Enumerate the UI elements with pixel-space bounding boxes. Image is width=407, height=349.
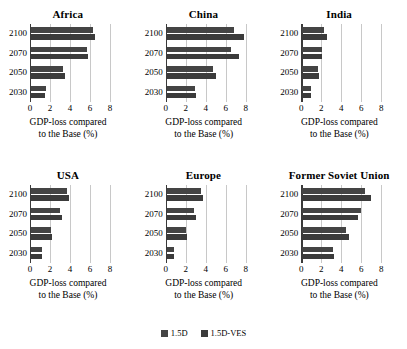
bar-group: 2100 bbox=[31, 185, 110, 205]
chart-panel-former-soviet-union: Former Soviet Union210020702050203002468… bbox=[271, 161, 407, 322]
legend-label: 1.5D bbox=[171, 328, 188, 338]
chart-panel-europe: Europe210020702050203002468GDP-loss comp… bbox=[136, 161, 272, 322]
bar-group: 2100 bbox=[167, 24, 246, 44]
x-axis-tick-label: 8 bbox=[379, 103, 384, 113]
x-axis-tick-label: 6 bbox=[223, 264, 228, 274]
x-axis-label-line2: to the Base (%) bbox=[138, 290, 270, 302]
x-axis-label-line1: GDP-loss compared bbox=[273, 278, 405, 290]
x-axis-label-line2: to the Base (%) bbox=[273, 290, 405, 302]
x-axis-tick-label: 0 bbox=[299, 103, 304, 113]
x-axis-tick-label: 0 bbox=[299, 264, 304, 274]
legend-swatch-icon bbox=[201, 330, 208, 337]
bar-group: 2050 bbox=[167, 224, 246, 244]
y-axis-tick-label: 2050 bbox=[280, 227, 298, 240]
x-axis-ticks: 02468 bbox=[30, 264, 110, 277]
x-axis-tick-label: 4 bbox=[203, 103, 208, 113]
x-axis-tick-label: 8 bbox=[379, 264, 384, 274]
y-axis-tick-label: 2050 bbox=[9, 227, 27, 240]
y-axis-tick-label: 2070 bbox=[280, 47, 298, 60]
y-axis-tick-label: 2100 bbox=[145, 188, 163, 201]
x-axis-label-line1: GDP-loss compared bbox=[273, 117, 405, 129]
y-axis-tick-label: 2050 bbox=[145, 227, 163, 240]
x-axis-tick-label: 0 bbox=[163, 264, 168, 274]
x-axis-tick-label: 4 bbox=[339, 103, 344, 113]
y-axis-tick-label: 2030 bbox=[280, 247, 298, 260]
chart-panel-india: India210020702050203002468GDP-loss compa… bbox=[271, 0, 407, 161]
x-axis-tick-label: 6 bbox=[359, 103, 364, 113]
plot-canvas: 2100207020502030 bbox=[166, 24, 246, 102]
bar-15d-ves bbox=[302, 73, 319, 79]
bar-15d bbox=[31, 27, 93, 33]
gridline bbox=[381, 24, 382, 102]
plot-area: 2100207020502030 bbox=[166, 185, 246, 263]
bar-group: 2030 bbox=[167, 244, 246, 264]
y-axis-tick-label: 2100 bbox=[9, 188, 27, 201]
x-axis-label-line1: GDP-loss compared bbox=[2, 278, 134, 290]
bar-group: 2070 bbox=[31, 44, 110, 64]
y-axis-tick-label: 2100 bbox=[145, 27, 163, 40]
bar-group: 2030 bbox=[302, 244, 381, 264]
x-axis-tick-label: 0 bbox=[28, 103, 33, 113]
bar-15d bbox=[31, 86, 46, 92]
bar-15d bbox=[167, 247, 174, 253]
panel-title: Europe bbox=[136, 169, 272, 181]
bar-15d bbox=[302, 227, 346, 233]
x-axis-ticks: 02468 bbox=[301, 264, 381, 277]
plot-area: 2100207020502030 bbox=[301, 24, 381, 102]
bar-15d-ves bbox=[31, 234, 52, 240]
panel-title: India bbox=[271, 8, 407, 20]
x-axis-tick-label: 0 bbox=[28, 264, 33, 274]
bar-group: 2070 bbox=[302, 205, 381, 225]
bar-group: 2100 bbox=[302, 185, 381, 205]
bar-group: 2030 bbox=[302, 83, 381, 103]
y-axis-tick-label: 2030 bbox=[145, 86, 163, 99]
x-axis-label-line2: to the Base (%) bbox=[2, 290, 134, 302]
x-axis-tick-label: 2 bbox=[319, 103, 324, 113]
y-axis-tick-label: 2030 bbox=[9, 86, 27, 99]
bar-group: 2050 bbox=[302, 63, 381, 83]
y-axis-tick-label: 2070 bbox=[280, 208, 298, 221]
legend-item: 1.5D bbox=[161, 328, 188, 338]
x-axis-tick-label: 6 bbox=[359, 264, 364, 274]
y-axis-tick-label: 2050 bbox=[145, 66, 163, 79]
bar-group: 2050 bbox=[302, 224, 381, 244]
bar-15d bbox=[31, 208, 60, 214]
bar-15d-ves bbox=[31, 215, 62, 221]
y-axis-tick-label: 2070 bbox=[145, 208, 163, 221]
bar-15d-ves bbox=[167, 54, 239, 60]
x-axis-label-line2: to the Base (%) bbox=[2, 129, 134, 141]
y-axis-tick-label: 2070 bbox=[9, 47, 27, 60]
x-axis-label: GDP-loss comparedto the Base (%) bbox=[273, 117, 405, 140]
x-axis-tick-label: 4 bbox=[68, 264, 73, 274]
chart-panel-china: China210020702050203002468GDP-loss compa… bbox=[136, 0, 272, 161]
bar-15d bbox=[167, 27, 234, 33]
bar-15d-ves bbox=[31, 54, 88, 60]
legend-label: 1.5D-VES bbox=[211, 328, 247, 338]
plot-canvas: 2100207020502030 bbox=[301, 24, 381, 102]
plot-canvas: 2100207020502030 bbox=[301, 185, 381, 263]
y-axis-tick-label: 2050 bbox=[9, 66, 27, 79]
x-axis-tick-label: 2 bbox=[48, 264, 53, 274]
x-axis-tick-label: 2 bbox=[183, 103, 188, 113]
bar-group: 2050 bbox=[31, 63, 110, 83]
x-axis-ticks: 02468 bbox=[166, 264, 246, 277]
bar-15d-ves bbox=[302, 54, 322, 60]
bar-15d-ves bbox=[31, 254, 42, 260]
bar-15d-ves bbox=[167, 73, 216, 79]
bar-15d-ves bbox=[302, 215, 358, 221]
bar-15d bbox=[31, 227, 51, 233]
chart-panel-usa: USA210020702050203002468GDP-loss compare… bbox=[0, 161, 136, 322]
bar-15d bbox=[302, 188, 365, 194]
bar-15d bbox=[167, 208, 194, 214]
x-axis-tick-label: 4 bbox=[68, 103, 73, 113]
y-axis-tick-label: 2030 bbox=[9, 247, 27, 260]
x-axis-label-line2: to the Base (%) bbox=[138, 129, 270, 141]
bar-group: 2030 bbox=[31, 244, 110, 264]
bar-15d bbox=[167, 227, 186, 233]
bar-15d-ves bbox=[167, 215, 196, 221]
x-axis-label: GDP-loss comparedto the Base (%) bbox=[273, 278, 405, 301]
bar-group: 2030 bbox=[167, 83, 246, 103]
bar-15d bbox=[167, 86, 195, 92]
bar-15d bbox=[302, 208, 361, 214]
bar-15d bbox=[31, 188, 67, 194]
